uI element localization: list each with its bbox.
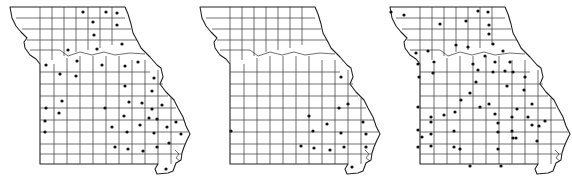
distribution-maps <box>0 0 572 181</box>
occurrence-dot <box>58 72 61 75</box>
occurrence-dot <box>155 117 158 120</box>
occurrence-dot <box>429 132 432 135</box>
occurrence-dot <box>123 84 126 87</box>
occurrence-dot <box>361 120 364 123</box>
map-1 <box>10 7 190 174</box>
occurrence-dot <box>150 89 153 92</box>
occurrence-dot <box>537 124 540 127</box>
occurrence-dot <box>122 114 125 117</box>
occurrence-dot <box>429 120 432 123</box>
occurrence-dot <box>530 123 533 126</box>
occurrence-dot <box>478 105 481 108</box>
occurrence-dot <box>325 122 328 125</box>
occurrence-dot <box>44 63 47 66</box>
occurrence-dot <box>514 136 517 139</box>
occurrence-dot <box>141 149 144 152</box>
map-3 <box>389 7 570 174</box>
occurrence-dot <box>459 98 462 101</box>
occurrence-dot <box>487 23 490 26</box>
map-2 <box>200 7 380 174</box>
occurrence-dot <box>483 54 486 57</box>
occurrence-dot <box>442 113 445 116</box>
occurrence-dot <box>431 71 434 74</box>
occurrence-dot <box>499 164 502 167</box>
occurrence-dot <box>60 99 63 102</box>
occurrence-dot <box>491 42 494 45</box>
occurrence-dot <box>150 107 153 110</box>
occurrence-dot <box>346 102 349 105</box>
occurrence-dot <box>311 129 314 132</box>
occurrence-dot <box>526 115 529 118</box>
occurrence-dot <box>458 147 461 150</box>
occurrence-dot <box>503 69 506 72</box>
occurrence-dot <box>510 129 513 132</box>
occurrence-dot <box>505 84 508 87</box>
occurrence-dot <box>43 119 46 122</box>
occurrence-dot <box>454 43 457 46</box>
occurrence-dot <box>493 60 496 63</box>
occurrence-dot <box>535 139 538 142</box>
occurrence-dot <box>115 23 118 26</box>
occurrence-dot <box>339 75 342 78</box>
occurrence-dot <box>471 62 474 65</box>
occurrence-dot <box>474 80 477 83</box>
occurrence-dot <box>66 48 69 51</box>
occurrence-dot <box>438 22 441 25</box>
occurrence-dot <box>337 106 340 109</box>
occurrence-dot <box>417 75 420 78</box>
occurrence-dot <box>152 76 155 79</box>
occurrence-dot <box>476 68 479 71</box>
occurrence-dot <box>416 145 419 148</box>
occurrence-dot <box>103 106 106 109</box>
occurrence-dot <box>92 33 95 36</box>
occurrence-dot <box>57 111 60 114</box>
occurrence-dot <box>328 148 331 151</box>
occurrence-dot <box>299 144 302 147</box>
occurrence-dot <box>95 47 98 50</box>
occurrence-dot <box>429 144 432 147</box>
occurrence-dot <box>136 60 139 63</box>
occurrence-dot <box>496 130 499 133</box>
occurrence-dot <box>476 9 479 12</box>
occurrence-dot <box>110 125 113 128</box>
occurrence-dot <box>140 101 143 104</box>
occurrence-dot <box>402 13 405 16</box>
occurrence-dot <box>364 145 367 148</box>
occurrence-dot <box>307 114 310 117</box>
occurrence-dot <box>491 70 494 73</box>
occurrence-dot <box>464 19 467 22</box>
occurrence-dot <box>126 147 129 150</box>
occurrence-dot <box>487 102 490 105</box>
occurrence-dot <box>466 45 469 48</box>
occurrence-dot <box>468 164 471 167</box>
occurrence-dot <box>125 130 128 133</box>
occurrence-dot <box>510 115 513 118</box>
occurrence-dot <box>453 110 456 113</box>
occurrence-dot <box>416 128 419 131</box>
occurrence-dot <box>508 60 511 63</box>
occurrence-dot <box>138 123 141 126</box>
occurrence-dot <box>429 115 432 118</box>
occurrence-dot <box>75 59 78 62</box>
occurrence-dot <box>486 10 489 13</box>
occurrence-dot <box>147 116 150 119</box>
occurrence-dot <box>342 145 345 148</box>
occurrence-dot <box>155 145 158 148</box>
occurrence-dot <box>432 60 435 63</box>
occurrence-dot <box>113 145 116 148</box>
occurrence-dot <box>100 63 103 66</box>
occurrence-dot <box>543 119 546 122</box>
occurrence-dot <box>389 10 392 13</box>
occurrence-dot <box>511 136 514 139</box>
occurrence-dot <box>164 167 167 170</box>
occurrence-dot <box>496 121 499 124</box>
occurrence-dot <box>91 20 94 23</box>
occurrence-dot <box>115 11 118 14</box>
occurrence-dot <box>167 141 170 144</box>
occurrence-dot <box>120 42 123 45</box>
occurrence-dot <box>501 49 504 52</box>
occurrence-dot <box>174 120 177 123</box>
occurrence-dot <box>452 129 455 132</box>
occurrence-dot <box>179 132 182 135</box>
occurrence-dot <box>515 107 518 110</box>
